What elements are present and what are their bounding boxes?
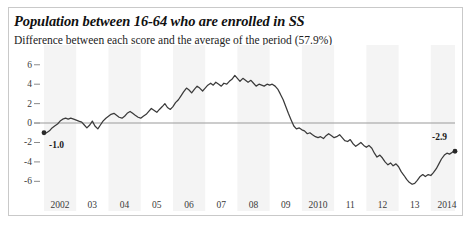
chart-plot-area: 6420-2-4-6200203040506070809201011121320…	[8, 7, 463, 216]
x-axis-tick-label: 04	[120, 200, 130, 210]
data-point-value-label: -1.0	[49, 140, 64, 150]
y-axis-tick-label: -4	[10, 157, 32, 167]
data-point-marker	[453, 149, 458, 154]
background-band	[173, 45, 205, 211]
y-axis-tick-label: 6	[10, 60, 32, 70]
y-axis-tick-label: 2	[10, 99, 32, 109]
x-axis-tick-label: 2010	[309, 200, 328, 210]
x-axis-tick-label: 08	[249, 200, 259, 210]
data-point-value-label: -2.9	[432, 132, 447, 142]
y-axis-tick-label: 4	[10, 79, 32, 89]
x-axis-tick-label: 2002	[51, 200, 70, 210]
x-axis-tick-label: 03	[88, 200, 98, 210]
x-axis-tick-label: 06	[184, 200, 194, 210]
x-axis-tick-label: 07	[217, 200, 227, 210]
x-axis-tick-label: 09	[281, 200, 291, 210]
y-axis-tick-label: -6	[10, 176, 32, 186]
x-axis-tick-label: 13	[410, 200, 420, 210]
y-axis-tick-label: -2	[10, 137, 32, 147]
data-point-marker	[42, 130, 47, 135]
background-band	[108, 45, 140, 211]
y-axis-tick-label: 0	[10, 118, 32, 128]
x-axis-tick-label: 2014	[437, 200, 456, 210]
background-band	[44, 45, 76, 211]
background-band	[366, 45, 398, 211]
x-axis-tick-label: 11	[346, 200, 355, 210]
x-axis-tick-label: 05	[152, 200, 162, 210]
background-band	[237, 45, 269, 211]
background-band	[302, 45, 334, 211]
x-axis-tick-label: 12	[378, 200, 388, 210]
line-chart-svg	[8, 7, 463, 216]
background-band	[431, 45, 455, 211]
